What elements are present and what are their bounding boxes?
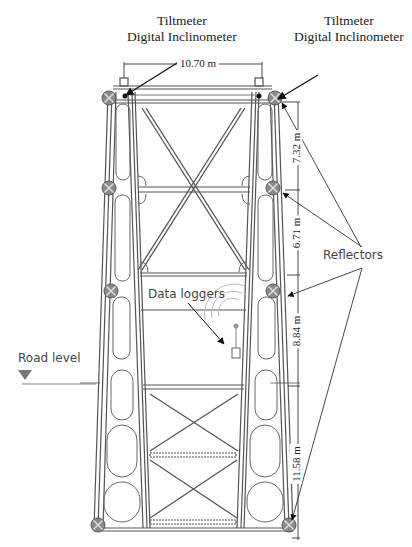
dimension-segment-1: 7.32 m	[290, 131, 302, 166]
tiltmeter-icon	[257, 94, 262, 99]
road-level-marker	[18, 370, 96, 384]
antenna-icon	[234, 324, 239, 329]
reflectors	[91, 91, 296, 532]
data-loggers-label: Data loggers	[148, 287, 225, 301]
reflectors-label: Reflectors	[323, 248, 383, 262]
road-level-triangle-icon	[18, 370, 32, 380]
tiltmeter-left-label: Tiltmeter Digital Inclinometer	[127, 13, 237, 45]
tower-drawing	[0, 0, 412, 547]
road-level-label: Road level	[18, 351, 80, 365]
tiltmeter-left-line1: Tiltmeter	[127, 13, 237, 29]
reflector-icon	[104, 284, 118, 298]
reflector-icon	[91, 518, 105, 532]
dimension-segment-2: 6.71 m	[290, 216, 302, 251]
reflector-icon	[102, 181, 116, 195]
reflector-icon	[282, 518, 296, 532]
dimension-segment-4: 11.58 m	[290, 444, 302, 484]
tiltmeter-left-line2: Digital Inclinometer	[127, 29, 237, 45]
tower-top	[113, 78, 272, 103]
tiltmeter-right-line2: Digital Inclinometer	[294, 29, 404, 45]
bridge-tower-diagram: Tiltmeter Digital Inclinometer Tiltmeter…	[0, 0, 412, 547]
dimension-segment-3: 8.84 m	[290, 314, 302, 349]
logger-box-icon	[232, 348, 240, 358]
tiltmeter-right-label: Tiltmeter Digital Inclinometer	[294, 13, 404, 45]
reflector-icon	[266, 181, 280, 195]
reflector-icon	[102, 91, 116, 105]
dimension-top-width-label: 10.70 m	[177, 57, 219, 69]
reflector-icon	[266, 284, 280, 298]
tiltmeter-right-line1: Tiltmeter	[294, 13, 404, 29]
